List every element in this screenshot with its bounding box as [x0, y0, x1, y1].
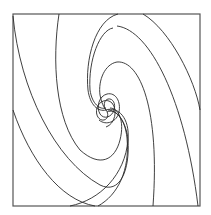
spiral-arm-curve: [117, 26, 198, 206]
spiral-arm-curve: [70, 109, 128, 206]
spiral-arm-curve: [90, 28, 113, 108]
spiral-arm-curve: [117, 62, 154, 206]
spiral-arm-curve: [143, 14, 200, 110]
spiral-curves: [13, 14, 200, 206]
spiral-arm-curve: [13, 110, 95, 206]
spiral-diagram: [0, 0, 211, 215]
spiral-arm-curve: [98, 111, 127, 206]
spiral-arm-curve: [56, 14, 122, 160]
